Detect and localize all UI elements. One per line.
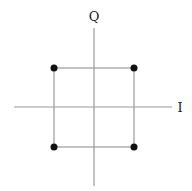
constellation-point-top-right [131, 65, 138, 72]
constellation-point-bottom-right [131, 144, 138, 151]
constellation-point-bottom-left [51, 144, 58, 151]
i-axis-label: I [177, 100, 182, 115]
constellation-diagram: Q I [0, 0, 192, 191]
constellation-point-top-left [51, 65, 58, 72]
q-axis-label: Q [89, 9, 100, 24]
